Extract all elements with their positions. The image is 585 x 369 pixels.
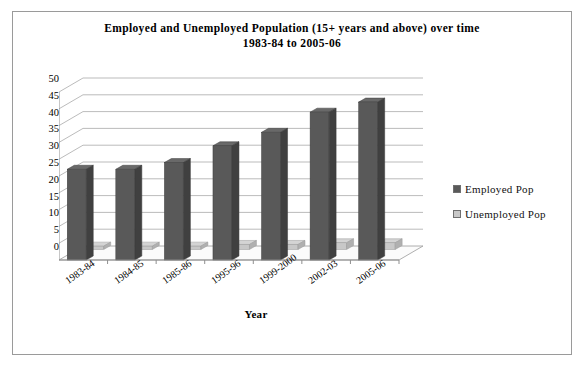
chart-plot-svg [59,67,453,272]
chart-legend: Employed Pop Unemployed Pop [453,182,573,232]
y-axis-tick-15: 15 [33,190,59,201]
y-axis: 05101520253035404550 [31,67,59,272]
y-axis-tick-5: 5 [33,224,59,235]
y-axis-tick-0: 0 [33,241,59,252]
legend-swatch-unemployed [453,210,461,218]
legend-label-employed: Employed Pop [465,183,534,195]
chart-title-line-2: 1983-84 to 2005-06 [13,36,571,51]
legend-swatch-employed [453,185,461,193]
y-axis-tick-50: 50 [33,73,59,84]
x-axis-title: Year [59,308,453,320]
chart-title-line-1: Employed and Unemployed Population (15+ … [13,21,571,36]
legend-item-employed: Employed Pop [453,182,573,195]
y-axis-tick-30: 30 [33,140,59,151]
x-axis-tick-labels: 1983-841984-851985-861995-961999-2000200… [59,267,453,337]
y-axis-tick-25: 25 [33,157,59,168]
plot-area: 05101520253035404550 1983-841984-851985-… [13,67,453,272]
y-axis-tick-40: 40 [33,106,59,117]
legend-item-unemployed: Unemployed Pop [453,207,573,220]
y-axis-tick-20: 20 [33,173,59,184]
chart-title: Employed and Unemployed Population (15+ … [13,21,571,51]
y-axis-tick-35: 35 [33,123,59,134]
chart-frame: Employed and Unemployed Population (15+ … [12,11,572,355]
y-axis-tick-45: 45 [33,89,59,100]
legend-label-unemployed: Unemployed Pop [465,208,546,220]
y-axis-tick-10: 10 [33,207,59,218]
